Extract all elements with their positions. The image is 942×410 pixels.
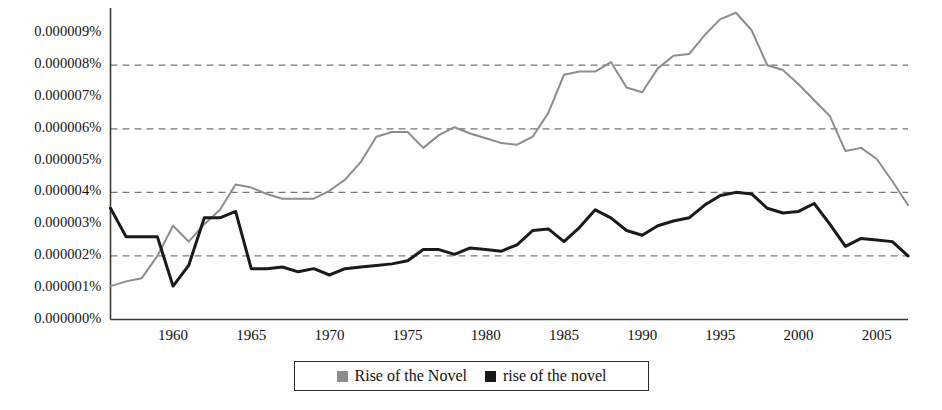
legend-square-icon: [485, 371, 496, 382]
legend-label: rise of the novel: [503, 367, 607, 385]
chart-legend: Rise of the Novel rise of the novel: [294, 361, 649, 391]
y-axis-tick-label: 0.000004%: [34, 182, 101, 199]
y-axis-tick-label: 0.000000%: [34, 310, 101, 327]
data-series: [111, 13, 909, 286]
chart-axes: [111, 8, 909, 320]
x-axis-tick-label: 1990: [612, 327, 672, 344]
x-axis-tick-label: 1960: [143, 327, 203, 344]
y-axis-tick-label: 0.000006%: [34, 119, 101, 136]
x-axis-tick-label: 1995: [690, 327, 750, 344]
gridlines: [111, 65, 909, 256]
x-axis-tick-label: 1975: [378, 327, 438, 344]
y-axis-tick-label: 0.000003%: [34, 214, 101, 231]
legend-square-icon: [337, 371, 348, 382]
x-axis-tick-label: 1980: [456, 327, 516, 344]
y-axis-tick-label: 0.000008%: [34, 55, 101, 72]
x-axis-tick-label: 1985: [534, 327, 594, 344]
y-axis-tick-label: 0.000002%: [34, 246, 101, 263]
legend-item-rise-of-the-novel-lower[interactable]: rise of the novel: [485, 367, 607, 385]
x-axis-tick-label: 1970: [299, 327, 359, 344]
x-axis-tick-label: 1965: [221, 327, 281, 344]
ngram-line-chart: 0.000000%0.000001%0.000002%0.000003%0.00…: [0, 0, 942, 410]
series-line: [111, 13, 909, 286]
plot-area: [0, 0, 942, 410]
series-line: [111, 192, 909, 286]
y-axis-tick-label: 0.000009%: [34, 23, 101, 40]
y-axis-tick-label: 0.000005%: [34, 151, 101, 168]
y-axis-tick-label: 0.000001%: [34, 278, 101, 295]
x-axis-tick-label: 2000: [769, 327, 829, 344]
legend-item-rise-of-the-novel-caps[interactable]: Rise of the Novel: [337, 367, 467, 385]
legend-label: Rise of the Novel: [355, 367, 467, 385]
x-axis-tick-label: 2005: [847, 327, 907, 344]
y-axis-tick-label: 0.000007%: [34, 87, 101, 104]
